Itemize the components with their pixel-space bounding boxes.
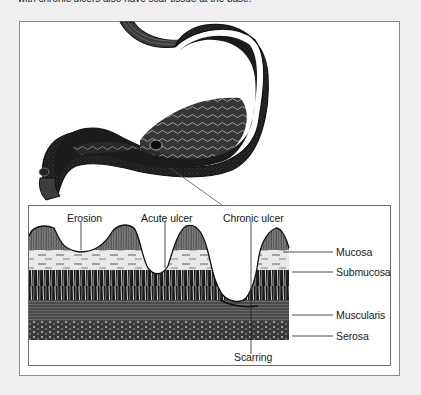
label-chronic-ulcer: Chronic ulcer: [223, 212, 284, 224]
label-mucosa: Mucosa: [336, 246, 372, 258]
label-erosion: Erosion: [67, 212, 102, 224]
label-serosa: Serosa: [336, 330, 369, 342]
label-scarring: Scarring: [234, 351, 272, 363]
label-muscularis: Muscularis: [336, 309, 385, 321]
label-submucosa: Submucosa: [336, 266, 391, 278]
label-acute-ulcer: Acute ulcer: [141, 212, 192, 224]
